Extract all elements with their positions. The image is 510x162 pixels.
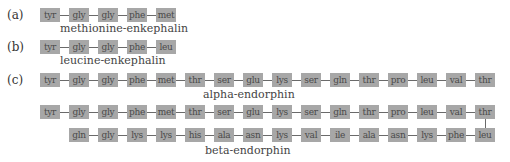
peptide-bond-line: [350, 112, 359, 113]
residue-box: ser: [301, 73, 321, 87]
residue-box: thr: [185, 105, 205, 119]
peptide-bond-line: [321, 135, 330, 136]
peptide-bond-line: [118, 15, 127, 16]
peptide-bond-line: [89, 80, 98, 81]
peptide-bond-line: [60, 47, 69, 48]
residue-box: lys: [272, 105, 292, 119]
peptide-bond-line: [205, 135, 214, 136]
peptide-bond-line: [147, 15, 156, 16]
residue-box: phe: [127, 105, 147, 119]
peptide-bond-line: [234, 135, 243, 136]
peptide-bond-line: [60, 80, 69, 81]
residue-box: ala: [214, 128, 234, 142]
peptide-bond-line: [118, 47, 127, 48]
residue-box: leu: [417, 73, 437, 87]
residue-box: leu: [417, 105, 437, 119]
residue-box: lys: [272, 73, 292, 87]
peptide-bond-line: [60, 15, 69, 16]
residue-box: gly: [98, 128, 118, 142]
residue-box: phe: [127, 8, 147, 22]
residue-box: ser: [301, 105, 321, 119]
peptide-bond-line: [147, 80, 156, 81]
residue-box: tyr: [40, 73, 60, 87]
residue-box: tyr: [40, 40, 60, 54]
panel-label-c: (c): [7, 73, 23, 87]
peptide-bond-line: [350, 135, 359, 136]
residue-box: asn: [243, 128, 263, 142]
residue-box: val: [446, 73, 466, 87]
peptide-diagram: (a) (b) (c) methionine-enkephalin leucin…: [0, 0, 510, 162]
peptide-bond-line: [118, 80, 127, 81]
peptide-bond-line: [205, 80, 214, 81]
residue-box: gly: [69, 73, 89, 87]
peptide-bond-line: [292, 112, 301, 113]
residue-box: gln: [69, 128, 89, 142]
residue-box: gln: [330, 73, 350, 87]
residue-box: glu: [243, 105, 263, 119]
panel-label-a: (a): [7, 8, 24, 22]
peptide-bond-line: [263, 112, 272, 113]
peptide-bond-line: [234, 112, 243, 113]
residue-box: his: [185, 128, 205, 142]
residue-box: lys: [127, 128, 147, 142]
peptide-bond-line: [466, 112, 475, 113]
peptide-bond-line: [263, 80, 272, 81]
peptide-bond-line: [408, 135, 417, 136]
residue-box: gly: [98, 8, 118, 22]
residue-box: gln: [330, 105, 350, 119]
peptide-bond-line: [176, 112, 185, 113]
residue-box: ile: [330, 128, 350, 142]
peptide-bond-line: [234, 80, 243, 81]
chain-turn-line: [485, 119, 486, 128]
peptide-bond-line: [60, 112, 69, 113]
peptide-bond-line: [118, 112, 127, 113]
residue-box: gly: [69, 105, 89, 119]
residue-box: met: [156, 8, 176, 22]
residue-box: lys: [156, 128, 176, 142]
residue-box: leu: [156, 40, 176, 54]
peptide-bond-line: [118, 135, 127, 136]
peptide-bond-line: [89, 135, 98, 136]
residue-box: gly: [98, 40, 118, 54]
residue-box: tyr: [40, 8, 60, 22]
peptide-bond-line: [437, 135, 446, 136]
peptide-bond-line: [466, 80, 475, 81]
peptide-bond-line: [176, 80, 185, 81]
peptide-bond-line: [263, 135, 272, 136]
residue-box: glu: [243, 73, 263, 87]
residue-box: pro: [388, 73, 408, 87]
peptide-bond-line: [437, 80, 446, 81]
peptide-bond-line: [379, 135, 388, 136]
residue-box: lys: [272, 128, 292, 142]
peptide-bond-line: [147, 47, 156, 48]
residue-box: thr: [185, 73, 205, 87]
peptide-bond-line: [379, 80, 388, 81]
residue-box: met: [156, 73, 176, 87]
peptide-bond-line: [379, 112, 388, 113]
residue-box: phe: [127, 73, 147, 87]
peptide-bond-line: [321, 80, 330, 81]
residue-box: val: [446, 105, 466, 119]
peptide-bond-line: [437, 112, 446, 113]
residue-box: thr: [359, 73, 379, 87]
peptide-bond-line: [89, 15, 98, 16]
residue-box: met: [156, 105, 176, 119]
residue-box: gly: [69, 40, 89, 54]
residue-box: leu: [475, 128, 495, 142]
peptide-bond-line: [292, 135, 301, 136]
panel-label-b: (b): [7, 40, 24, 54]
peptide-bond-line: [147, 112, 156, 113]
caption-beta-endorphin: beta-endorphin: [205, 145, 291, 157]
residue-box: phe: [127, 40, 147, 54]
residue-box: tyr: [40, 105, 60, 119]
residue-box: gly: [98, 73, 118, 87]
peptide-bond-line: [321, 112, 330, 113]
peptide-bond-line: [147, 135, 156, 136]
residue-box: ser: [214, 105, 234, 119]
caption-alpha-endorphin: alpha-endorphin: [203, 89, 295, 101]
peptide-bond-line: [89, 47, 98, 48]
residue-box: thr: [475, 105, 495, 119]
residue-box: lys: [417, 128, 437, 142]
residue-box: ala: [359, 128, 379, 142]
peptide-bond-line: [350, 80, 359, 81]
